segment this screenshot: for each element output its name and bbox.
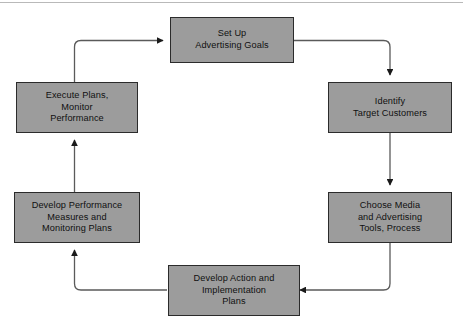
node-label-execute-plans-monitor-performance: Execute Plans, Monitor Performance — [44, 90, 111, 125]
connector-choose-media-to-develop-action — [300, 243, 390, 290]
node-set-up-advertising-goals[interactable]: Set Up Advertising Goals — [170, 17, 294, 63]
node-develop-action-implementation-plans[interactable]: Develop Action and Implementation Plans — [168, 265, 300, 316]
node-label-develop-performance-measures: Develop Performance Measures and Monitor… — [30, 200, 125, 235]
diagram-canvas: Set Up Advertising Goals Identify Target… — [0, 0, 463, 334]
node-label-set-up-advertising-goals: Set Up Advertising Goals — [193, 28, 271, 51]
node-identify-target-customers[interactable]: Identify Target Customers — [328, 82, 452, 133]
node-label-choose-media-advertising-tools: Choose Media and Advertising Tools, Proc… — [356, 200, 424, 235]
node-develop-performance-measures[interactable]: Develop Performance Measures and Monitor… — [14, 192, 140, 243]
node-label-identify-target-customers: Identify Target Customers — [351, 96, 429, 119]
node-execute-plans-monitor-performance[interactable]: Execute Plans, Monitor Performance — [16, 82, 138, 133]
connector-goals-to-identify — [294, 41, 390, 76]
node-choose-media-advertising-tools[interactable]: Choose Media and Advertising Tools, Proc… — [328, 192, 452, 243]
node-label-develop-action-implementation-plans: Develop Action and Implementation Plans — [192, 273, 277, 308]
connector-develop-action-to-performance-measures — [75, 250, 168, 290]
connector-execute-plans-to-goals — [75, 41, 164, 83]
